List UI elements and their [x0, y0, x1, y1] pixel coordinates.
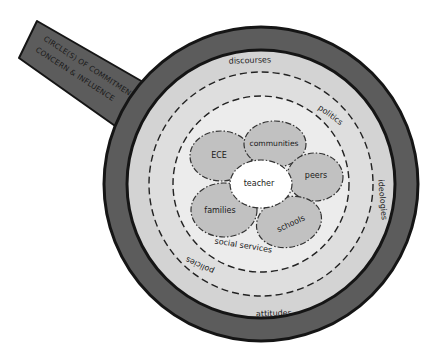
petal-label-peers: peers [305, 171, 327, 180]
circles-of-commitment-diagram: CIRCLE(S) OF COMMITMENT, CONCERN & INFLU… [0, 0, 441, 358]
petal-label-families: families [204, 206, 235, 215]
center-label-teacher: teacher [244, 179, 275, 188]
petal-label-communities: communities [249, 139, 298, 148]
petal-label-ece: ECE [211, 151, 227, 160]
ring-label-discourses: discourses [229, 55, 272, 65]
ring-label-attitudes: attitudes [256, 308, 292, 318]
